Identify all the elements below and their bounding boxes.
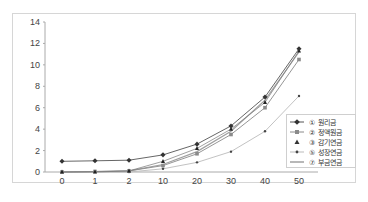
data-point-marker [298,95,300,97]
legend-label: ⑦ 부금연금 [309,157,342,167]
y-tick-label: 12 [30,38,40,48]
x-tick-label: 10 [158,176,168,186]
x-tick-label: 0 [59,176,64,186]
legend-label: ⑤ 성장연금 [309,147,342,157]
y-tick-label: 0 [35,167,40,177]
data-point-marker [263,106,267,110]
x-tick-label: 20 [192,176,202,186]
data-point-marker [195,152,199,156]
y-tick-label: 14 [30,17,40,27]
legend-label: ① 원리금 [309,117,336,127]
y-tick-label: 8 [35,81,40,91]
legend-item-3: ③ 감기연금 [290,137,352,147]
data-point-marker [264,130,266,132]
data-point-marker [162,168,164,170]
y-tick-label: 10 [30,60,40,70]
chart-legend: ① 원리금 ② 정액원금 ③ 감기연금 ⑤ 성장연금 ⑦ 부금연금 [286,114,356,168]
data-point-marker [92,158,97,163]
data-point-marker [297,58,301,62]
series-line [62,51,299,172]
series-line [62,49,299,162]
data-point-marker [230,150,232,152]
data-point-marker [160,152,165,157]
x-tick-label: 50 [294,176,304,186]
data-point-marker [126,158,131,163]
legend-item-1: ① 원리금 [290,117,352,127]
x-tick-label: 1 [92,176,97,186]
x-tick-label: 30 [226,176,236,186]
legend-swatch-triangle-icon [290,138,304,146]
legend-label: ② 정액원금 [309,127,342,137]
legend-swatch-diamond-icon [290,118,304,126]
legend-swatch-dot-icon [290,148,304,156]
x-tick-label: 2 [126,176,131,186]
legend-swatch-square-icon [290,128,304,136]
y-tick-label: 4 [35,124,40,134]
data-point-marker [229,133,233,137]
series-line [62,60,299,173]
data-point-marker [194,142,199,147]
legend-item-2: ② 정액원금 [290,127,352,137]
data-point-marker [196,161,198,163]
y-tick-label: 2 [35,146,40,156]
y-tick-label: 6 [35,103,40,113]
line-chart: 024681012140121020304050 [0,0,368,202]
legend-item-5: ⑦ 부금연금 [290,157,352,167]
legend-label: ③ 감기연금 [309,137,342,147]
data-point-marker [161,164,165,168]
x-tick-label: 40 [260,176,270,186]
data-point-marker [59,159,64,164]
series-line [62,52,299,172]
legend-swatch-line-icon [290,158,304,166]
legend-item-4: ⑤ 성장연금 [290,147,352,157]
